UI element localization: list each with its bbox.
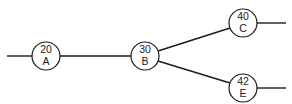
node-e-label: E bbox=[239, 87, 246, 99]
node-a-value: 20 bbox=[40, 43, 52, 55]
node-b-value: 30 bbox=[139, 43, 151, 55]
node-a: 20 A bbox=[32, 42, 60, 70]
edge-b-c bbox=[158, 28, 230, 51]
node-a-label: A bbox=[42, 55, 49, 67]
node-e: 42 E bbox=[229, 74, 257, 102]
node-e-value: 42 bbox=[237, 75, 249, 87]
node-c-value: 40 bbox=[237, 10, 249, 22]
node-b: 30 B bbox=[131, 42, 159, 70]
node-c-label: C bbox=[239, 22, 247, 34]
node-c: 40 C bbox=[229, 9, 257, 37]
edge-b-e bbox=[158, 61, 230, 83]
node-b-label: B bbox=[141, 55, 148, 67]
network-diagram: 20 A 30 B 40 C 42 E bbox=[0, 0, 292, 104]
